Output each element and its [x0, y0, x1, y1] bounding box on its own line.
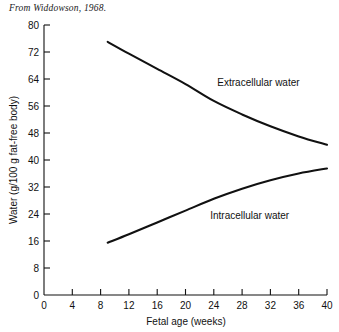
x-axis-ticks — [72, 289, 327, 295]
y-axis: 08162432404856647280 Water (g/100 g fat-… — [8, 20, 50, 301]
x-tick-label-4: 4 — [70, 300, 76, 311]
x-tick-label-24: 24 — [208, 300, 220, 311]
x-tick-label-16: 16 — [152, 300, 164, 311]
y-axis-title: Water (g/100 g fat-free body) — [8, 96, 19, 224]
x-tick-label-36: 36 — [293, 300, 305, 311]
y-axis-ticks — [44, 25, 50, 268]
y-tick-label-72: 72 — [28, 47, 40, 58]
series-annotation-layer: Extracellular waterIntracellular water — [210, 77, 300, 221]
series-label-extracellular-water: Extracellular water — [217, 77, 300, 88]
y-tick-label-40: 40 — [28, 155, 40, 166]
y-tick-label-64: 64 — [28, 74, 40, 85]
y-tick-label-48: 48 — [28, 128, 40, 139]
y-tick-label-16: 16 — [28, 236, 40, 247]
x-tick-label-32: 32 — [265, 300, 277, 311]
y-axis-tick-labels: 08162432404856647280 — [28, 20, 40, 301]
series-line-intracellular-water — [108, 168, 327, 242]
x-tick-label-20: 20 — [180, 300, 192, 311]
y-tick-label-80: 80 — [28, 20, 40, 31]
x-tick-label-12: 12 — [123, 300, 135, 311]
y-tick-label-32: 32 — [28, 182, 40, 193]
x-axis-title: Fetal age (weeks) — [146, 316, 225, 327]
y-tick-label-0: 0 — [33, 290, 39, 301]
series-line-extracellular-water — [108, 42, 327, 145]
x-axis: 0481216202428323640 Fetal age (weeks) — [41, 289, 333, 327]
x-axis-tick-labels: 0481216202428323640 — [41, 300, 333, 311]
x-tick-label-28: 28 — [237, 300, 249, 311]
x-tick-label-8: 8 — [98, 300, 104, 311]
y-tick-label-8: 8 — [33, 263, 39, 274]
y-tick-label-56: 56 — [28, 101, 40, 112]
y-tick-label-24: 24 — [28, 209, 40, 220]
x-tick-label-40: 40 — [321, 300, 333, 311]
x-tick-label-0: 0 — [41, 300, 47, 311]
chart-canvas: 08162432404856647280 Water (g/100 g fat-… — [0, 0, 339, 332]
series-label-intracellular-water: Intracellular water — [210, 210, 290, 221]
chart-figure: 08162432404856647280 Water (g/100 g fat-… — [0, 0, 339, 332]
